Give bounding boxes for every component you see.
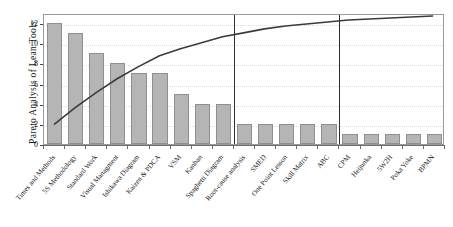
x-tick-mark: [360, 145, 361, 149]
cumulative-curve: [44, 15, 443, 144]
x-tick-mark: [381, 145, 382, 149]
x-tick-mark: [254, 145, 255, 149]
x-tick-mark: [423, 145, 424, 149]
x-tick-mark: [317, 145, 318, 149]
x-tick-mark: [127, 145, 128, 149]
x-tick-mark: [444, 145, 445, 149]
y-tick-label: 4: [24, 101, 38, 109]
y-tick-label: 8: [24, 60, 38, 68]
x-tick-mark: [191, 145, 192, 149]
x-tick-mark: [212, 145, 213, 149]
x-tick-mark: [402, 145, 403, 149]
y-tick-label: 2: [24, 121, 38, 129]
x-tick-mark: [64, 145, 65, 149]
y-tick-label: 10: [24, 40, 38, 48]
plot-area: [43, 14, 444, 145]
y-tick-label: 6: [24, 81, 38, 89]
x-tick-mark: [170, 145, 171, 149]
x-tick-mark: [149, 145, 150, 149]
x-tick-mark: [275, 145, 276, 149]
x-tick-mark: [338, 145, 339, 149]
x-tick-mark: [233, 145, 234, 149]
x-tick-mark: [85, 145, 86, 149]
x-tick-mark: [106, 145, 107, 149]
pareto-chart: Pareto Analysis of Lean Tools 024681012 …: [0, 0, 453, 227]
x-axis-line: [43, 145, 444, 146]
x-tick-mark: [43, 145, 44, 149]
y-tick-label: 12: [24, 20, 38, 28]
x-tick-mark: [296, 145, 297, 149]
y-tick-label: 0: [24, 141, 38, 149]
